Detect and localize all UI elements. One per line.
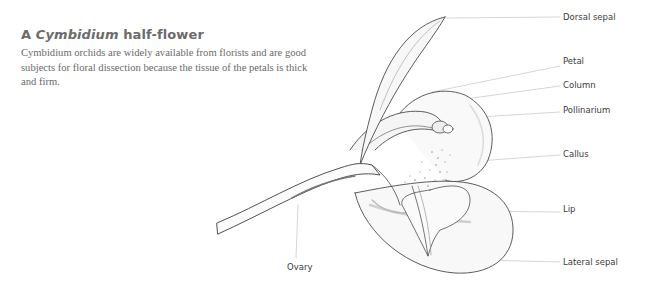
label-petal: Petal [563, 56, 584, 66]
label-ovary: Ovary [287, 262, 312, 272]
label-lateral-sepal: Lateral sepal [563, 257, 618, 267]
label-column: Column [563, 80, 596, 90]
label-pollinarium: Pollinarium [563, 105, 610, 115]
petal-shape [395, 91, 492, 181]
label-lip: Lip [563, 204, 576, 214]
label-callus: Callus [563, 149, 589, 159]
label-dorsal-sepal: Dorsal sepal [563, 12, 616, 22]
cymbidium-half-flower-illustration [0, 0, 645, 283]
